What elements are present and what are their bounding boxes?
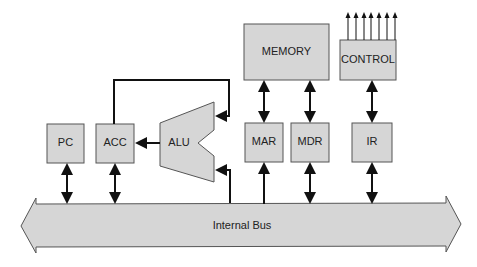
mdr-bus-arrow-icon [304,162,316,204]
memory-mar-arrow-icon [258,80,270,123]
pc-label: PC [58,136,73,148]
alu-label: ALU [168,136,189,148]
bus-to-mar-arrow-icon [258,162,270,204]
acc-bus-arrow-icon [109,163,121,204]
control-unit: CONTROL [340,40,396,80]
cpu-architecture-diagram: Internal Bus PC ACC ALU MEMORY CONTROL M… [0,0,477,267]
pc-bus-arrow-icon [61,163,73,204]
acc-register: ACC [96,124,134,163]
mar-label: MAR [252,135,277,147]
alu-to-acc-arrow-icon [135,137,160,149]
control-output-arrows-icon [346,12,398,40]
mar-register: MAR [245,123,283,162]
acc-label: ACC [103,136,126,148]
memory-label: MEMORY [262,45,312,57]
memory-mdr-arrow-icon [304,80,316,123]
mdr-label: MDR [297,135,322,147]
internal-bus: Internal Bus [21,196,461,253]
internal-bus-label: Internal Bus [213,219,272,231]
mdr-register: MDR [291,123,329,162]
pc-register: PC [47,124,84,163]
control-label: CONTROL [341,53,395,65]
memory-block: MEMORY [244,24,329,80]
ir-register: IR [352,123,392,162]
ir-bus-arrow-icon [366,162,378,204]
control-ir-arrow-icon [366,80,378,123]
ir-label: IR [367,135,378,147]
bus-to-alu-arrow-icon [215,164,230,203]
alu-unit: ALU [160,102,214,182]
